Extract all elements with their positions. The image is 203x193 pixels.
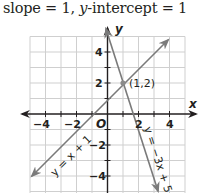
x-tick-label: 4: [166, 118, 174, 131]
x-tick-label: −4: [33, 118, 50, 131]
intersection-point: [120, 80, 125, 85]
x-axis-label: x: [188, 97, 198, 111]
coordinate-graph: (1,2) x y O −4 −2 2 4 4 2 −2 −4 y = x + …: [0, 0, 203, 193]
y-tick-label: 2: [95, 77, 103, 90]
y-axis-label: y: [115, 22, 124, 36]
y-tick-label: −4: [89, 170, 106, 183]
line1-equation-label: y = x + 1: [48, 133, 94, 179]
x-tick-label: −2: [64, 118, 81, 131]
y-tick-label: 4: [95, 46, 103, 59]
point-label: (1,2): [129, 77, 155, 90]
origin-label: O: [96, 117, 106, 131]
line-y-equals-neg3x-plus-5: [106, 29, 158, 191]
line-y-equals-x-plus-1: [32, 40, 168, 176]
